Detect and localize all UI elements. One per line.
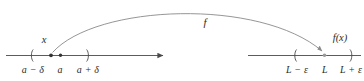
- label-x: x: [42, 35, 47, 46]
- point-x-dot: [49, 53, 53, 57]
- mapping-arc: [53, 14, 323, 53]
- domain-axis-group: [6, 50, 163, 62]
- figure-canvas: [0, 0, 364, 81]
- label-L-minus-epsilon: L − ε: [286, 65, 308, 75]
- label-L-plus-epsilon: L + ε: [340, 65, 362, 75]
- label-a-plus-delta: a + δ: [77, 65, 99, 75]
- point-L-dot: [323, 54, 327, 58]
- label-a-minus-delta: a − δ: [22, 65, 44, 75]
- label-a: a: [57, 65, 62, 75]
- point-a-dot: [59, 54, 62, 57]
- label-L: L: [322, 65, 328, 75]
- label-f: f: [203, 17, 206, 28]
- limit-definition-figure: x f(x) f a − δ a a + δ L − ε L L + ε: [0, 0, 364, 81]
- label-f-of-x: f(x): [333, 33, 348, 44]
- range-axis-group: [248, 50, 361, 62]
